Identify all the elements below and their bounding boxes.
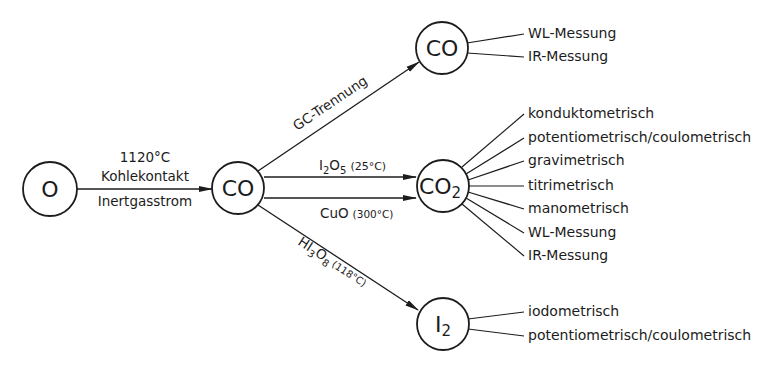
method-potentiometric-coulometric: potentiometrisch/coulometrisch bbox=[528, 327, 751, 343]
method-titrimetric: titrimetrisch bbox=[528, 177, 614, 193]
branches-co2: konduktometrisch potentiometrisch/coulom… bbox=[462, 105, 751, 263]
method-manometric: manometrisch bbox=[528, 200, 629, 216]
edge-co-to-co-top: GC-Trennung bbox=[258, 62, 419, 171]
svg-text:O: O bbox=[41, 177, 58, 202]
method-conductometric: konduktometrisch bbox=[528, 105, 654, 121]
edge-label-temperature: 1120°C bbox=[120, 149, 171, 165]
method-potentiometric-coulometric: potentiometrisch/coulometrisch bbox=[528, 129, 751, 145]
branches-co-top: WL-Messung IR-Messung bbox=[467, 25, 616, 64]
method-ir-measurement: IR-Messung bbox=[528, 48, 608, 64]
edge-co-to-co2-i2o5: I2O5(25°C) bbox=[264, 157, 416, 177]
method-wl-measurement: WL-Messung bbox=[528, 25, 616, 41]
method-iodometric: iodometrisch bbox=[528, 303, 619, 319]
edge-label-carbon-contact: Kohlekontakt bbox=[101, 168, 189, 184]
edge-label-i2o5: I2O5(25°C) bbox=[319, 157, 386, 176]
branches-i2: iodometrisch potentiometrisch/coulometri… bbox=[468, 303, 751, 343]
node-co-mid: CO bbox=[212, 162, 264, 214]
svg-text:CO: CO bbox=[426, 36, 459, 61]
node-o: O bbox=[23, 162, 77, 216]
edge-o-to-co: 1120°C Kohlekontakt Inertgasstrom bbox=[77, 149, 212, 209]
node-i2: I2 bbox=[417, 298, 469, 350]
method-wl-measurement: WL-Messung bbox=[528, 224, 616, 240]
method-ir-measurement: IR-Messung bbox=[528, 247, 608, 263]
edge-co-to-co2-cuo: CuO(300°C) bbox=[264, 198, 416, 221]
svg-text:CO: CO bbox=[222, 176, 255, 201]
oxygen-determination-diagram: 1120°C Kohlekontakt Inertgasstrom GC-Tre… bbox=[0, 0, 772, 373]
node-co2: CO2 bbox=[417, 160, 469, 212]
edge-label-inert-gas: Inertgasstrom bbox=[98, 193, 193, 209]
node-co-top: CO bbox=[416, 22, 468, 74]
edge-label-cuo: CuO(300°C) bbox=[320, 205, 393, 221]
edge-label-hi3o8: HI3O8(118°C) bbox=[294, 233, 371, 292]
method-gravimetric: gravimetrisch bbox=[528, 152, 625, 168]
